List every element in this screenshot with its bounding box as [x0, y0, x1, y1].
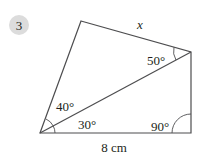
angle-arc-30: [53, 126, 55, 133]
angle-label-90: 90°: [151, 119, 169, 134]
side-label-8cm: 8 cm: [101, 140, 127, 155]
geometry-figure: 3 x 50° 40° 30° 90° 8 cm: [0, 0, 206, 162]
angle-label-50: 50°: [147, 53, 165, 68]
quadrilateral-outline: [40, 21, 191, 133]
angle-arc-90: [172, 114, 191, 133]
angle-label-30: 30°: [78, 117, 96, 132]
side-label-x: x: [136, 17, 143, 32]
angle-label-40: 40°: [56, 99, 74, 114]
angle-arc-50: [174, 47, 176, 60]
question-number: 3: [16, 18, 23, 33]
question-number-badge: 3: [9, 15, 29, 35]
angle-arc-40: [46, 119, 53, 126]
